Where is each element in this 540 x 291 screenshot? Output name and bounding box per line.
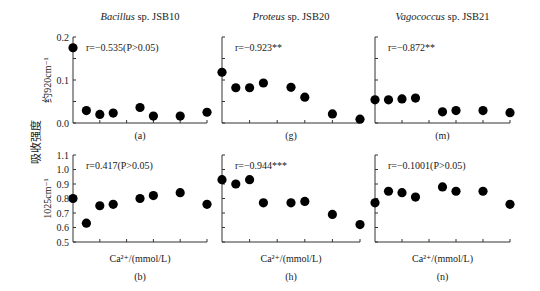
panel-label: (m) xyxy=(435,130,449,142)
panel-h: r=−0.944***Ca²⁺/(mmol/L)(h) xyxy=(217,155,364,283)
x-axis-label: Ca²⁺/(mmol/L) xyxy=(260,253,321,265)
y-tick-label: 0.8 xyxy=(57,193,70,204)
panel-title: Vagococcus sp. JSB21 xyxy=(395,11,489,22)
panel-n: r=−0.1001(P>0.05)Ca²⁺/(mmol/L)(n) xyxy=(370,155,514,283)
panel-title: Bacillus sp. JSB10 xyxy=(100,11,179,22)
data-point xyxy=(231,179,240,188)
data-point xyxy=(384,187,393,196)
data-point xyxy=(355,115,364,124)
y-tick-label: 0.6 xyxy=(57,222,70,233)
panel-label: (g) xyxy=(285,130,297,142)
y-axis-label: 约920cm⁻¹ xyxy=(41,57,53,103)
data-point xyxy=(149,191,158,200)
data-point xyxy=(300,197,309,206)
correlation-annotation: r=−0.923** xyxy=(235,42,282,53)
data-point xyxy=(149,112,158,121)
correlation-annotation: r=−0.872** xyxy=(388,42,435,53)
data-point xyxy=(451,106,460,115)
y-tick-label: 0.9 xyxy=(57,179,70,190)
x-axis-label: Ca²⁺/(mmol/L) xyxy=(412,253,473,265)
data-point xyxy=(109,200,118,209)
data-point xyxy=(505,200,514,209)
data-point xyxy=(95,110,104,119)
data-point xyxy=(68,194,77,203)
data-point xyxy=(355,220,364,229)
y-tick-label: 0.2 xyxy=(57,32,70,43)
data-point xyxy=(245,175,254,184)
y-tick-label: 1.1 xyxy=(57,150,70,161)
data-point xyxy=(478,187,487,196)
correlation-annotation: r=−0.1001(P>0.05) xyxy=(388,160,465,172)
data-point xyxy=(384,95,393,104)
data-point xyxy=(411,93,420,102)
panel-label: (b) xyxy=(134,271,146,283)
data-point xyxy=(397,188,406,197)
panel-b: 0.50.60.70.80.91.01.1r=0.417(P>0.05)1025… xyxy=(42,150,212,284)
y-tick-label: 1.0 xyxy=(57,164,70,175)
correlation-annotation: r=−0.535(P>0.05) xyxy=(86,42,158,54)
data-point xyxy=(478,106,487,115)
data-point xyxy=(259,198,268,207)
panel-g: Proteus sp. JSB20r=−0.923**(g) xyxy=(217,11,364,142)
data-point xyxy=(370,198,379,207)
data-point xyxy=(176,188,185,197)
data-point xyxy=(300,93,309,102)
data-point xyxy=(217,68,226,77)
data-point xyxy=(135,194,144,203)
data-point xyxy=(202,200,211,209)
correlation-annotation: r=0.417(P>0.05) xyxy=(86,160,153,172)
data-point xyxy=(135,103,144,112)
data-point xyxy=(82,219,91,228)
data-point xyxy=(411,192,420,201)
y-axis-label: 1025cm⁻¹ xyxy=(42,178,53,219)
data-point xyxy=(109,109,118,118)
data-point xyxy=(370,95,379,104)
data-point xyxy=(259,78,268,87)
x-axis-label: Ca²⁺/(mmol/L) xyxy=(109,253,170,265)
panels: 0.00.10.2Bacillus sp. JSB10r=−0.535(P>0.… xyxy=(41,11,515,283)
data-point xyxy=(245,83,254,92)
data-point xyxy=(397,94,406,103)
panel-label: (a) xyxy=(134,130,145,142)
data-point xyxy=(68,43,77,52)
data-point xyxy=(286,83,295,92)
panel-label: (n) xyxy=(437,271,449,283)
data-point xyxy=(286,198,295,207)
panel-label: (h) xyxy=(285,271,297,283)
panel-title: Proteus sp. JSB20 xyxy=(252,11,330,22)
panel-m: Vagococcus sp. JSB21r=−0.872**(m) xyxy=(370,11,514,142)
data-point xyxy=(217,175,226,184)
data-point xyxy=(505,108,514,117)
y-tick-label: 0.7 xyxy=(57,208,70,219)
data-point xyxy=(231,83,240,92)
y-tick-label: 0.5 xyxy=(57,237,70,248)
data-point xyxy=(95,201,104,210)
data-point xyxy=(438,182,447,191)
data-point xyxy=(202,108,211,117)
data-point xyxy=(82,106,91,115)
shared-ylabel: 吸收强度 xyxy=(29,120,42,164)
data-point xyxy=(328,210,337,219)
y-tick-label: 0.0 xyxy=(57,118,70,129)
panel-a: 0.00.10.2Bacillus sp. JSB10r=−0.535(P>0.… xyxy=(41,11,212,142)
y-tick-label: 0.1 xyxy=(57,75,70,86)
figure-canvas: 吸收强度 0.00.10.2Bacillus sp. JSB10r=−0.535… xyxy=(0,0,540,291)
data-point xyxy=(328,109,337,118)
data-point xyxy=(438,107,447,116)
correlation-annotation: r=−0.944*** xyxy=(235,160,287,171)
data-point xyxy=(451,187,460,196)
data-point xyxy=(176,112,185,121)
